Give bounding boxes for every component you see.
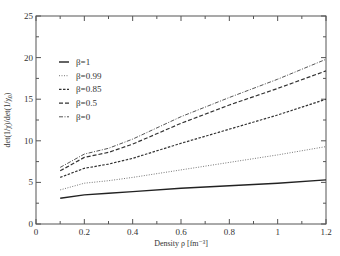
legend-label: β=0.85	[76, 84, 102, 94]
x-tick-label: 1.2	[320, 227, 331, 237]
line-chart: 00.20.40.60.811.20510152025 β=1β=0.99β=0…	[0, 0, 340, 256]
series-line	[60, 180, 326, 198]
y-tick-label: 0	[29, 219, 34, 229]
x-axis-title: Density ρ [fm⁻³]	[154, 239, 208, 248]
x-tick-label: 0.4	[127, 227, 139, 237]
x-tick-label: 0.2	[79, 227, 90, 237]
legend-label: β=0.5	[76, 98, 97, 108]
x-tick-label: 0.6	[175, 227, 187, 237]
y-tick-label: 10	[24, 136, 34, 146]
y-tick-label: 5	[29, 177, 34, 187]
legend-label: β=0.99	[76, 71, 102, 81]
y-axis-title: det(1/χ)/det(1/χ₀)	[3, 92, 12, 147]
y-tick-label: 15	[24, 94, 34, 104]
series-line	[60, 147, 326, 190]
series-line	[60, 99, 326, 177]
x-tick-label: 1	[275, 227, 280, 237]
x-tick-label: 0	[34, 227, 39, 237]
y-tick-label: 20	[24, 53, 34, 63]
legend-label: β=1	[76, 57, 90, 67]
legend-label: β=0	[76, 112, 91, 122]
x-tick-label: 0.8	[224, 227, 236, 237]
axis-ticks: 00.20.40.60.811.20510152025	[24, 11, 332, 237]
legend: β=1β=0.99β=0.85β=0.5β=0	[59, 57, 102, 122]
y-tick-label: 25	[24, 11, 34, 21]
